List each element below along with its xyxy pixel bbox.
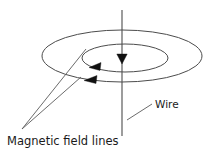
diagram-canvas: Wire Magnetic field lines [0,0,211,150]
magnetic-field-diagram: Wire Magnetic field lines [0,0,211,150]
field-label-leader-upper [22,49,86,129]
field-label-leader-lower [22,77,81,129]
magnetic-field-lines-label: Magnetic field lines [7,134,119,148]
wire-label: Wire [155,98,179,110]
current-direction-arrow-icon [117,54,127,64]
wire-label-leader [127,104,152,120]
